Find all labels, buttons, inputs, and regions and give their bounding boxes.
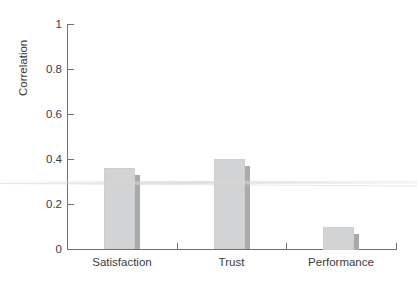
x-tick-label-satisfaction: Satisfaction [67, 256, 177, 269]
y-axis-line [67, 24, 68, 250]
y-tick-mark-0.6 [68, 114, 74, 115]
x-tick-label-performance: Performance [286, 256, 396, 269]
bar-performance-shadow [354, 234, 359, 250]
bar-performance-face [323, 227, 354, 250]
bar-satisfaction-face [104, 168, 135, 249]
bar-satisfaction-shadow [135, 175, 140, 249]
x-tick-mark-3 [396, 243, 397, 250]
x-tick-mark-0 [67, 243, 68, 250]
scan-artifact-line-secondary [0, 183, 417, 187]
y-tick-label-0.2: 0.2 [22, 199, 62, 211]
y-tick-mark-1 [68, 24, 74, 25]
y-tick-label-0.6: 0.6 [22, 109, 62, 121]
x-tick-label-trust: Trust [177, 256, 286, 269]
scan-artifact-line [0, 181, 417, 184]
y-tick-label-1: 1 [22, 19, 62, 31]
y-tick-label-0.4: 0.4 [22, 154, 62, 166]
y-tick-label-0: 0 [22, 244, 62, 256]
x-tick-mark-1 [177, 243, 178, 250]
bar-trust-face [214, 159, 245, 249]
bar-trust-shadow [245, 166, 250, 249]
y-tick-mark-0.8 [68, 69, 74, 70]
bar-chart-figure: Correlation 1 0.8 0.6 0.4 0.2 0 Satisfac… [0, 0, 417, 282]
y-tick-mark-0.4 [68, 159, 74, 160]
y-tick-mark-0.2 [68, 204, 74, 205]
x-tick-mark-2 [286, 243, 287, 250]
y-tick-label-0.8: 0.8 [22, 64, 62, 76]
